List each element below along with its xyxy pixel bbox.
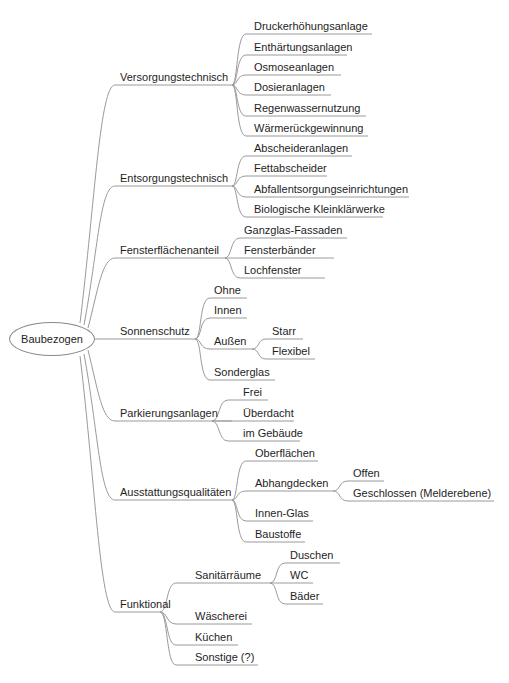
node-funktional[interactable]: Funktional <box>120 598 171 611</box>
node-regenwassernutzung[interactable]: Regenwassernutzung <box>254 102 360 115</box>
node-kuechen[interactable]: Küchen <box>195 631 232 644</box>
node-ganzglas-fassaden[interactable]: Ganzglas-Fassaden <box>244 224 342 237</box>
node-sanitaerraeume[interactable]: Sanitärräume <box>195 569 261 582</box>
node-flexibel[interactable]: Flexibel <box>272 345 310 358</box>
node-fensterflaechenanteil[interactable]: Fensterflächenanteil <box>120 244 219 257</box>
node-abhangdecken[interactable]: Abhangdecken <box>255 477 328 490</box>
node-wc[interactable]: WC <box>290 569 308 582</box>
node-baustoffe[interactable]: Baustoffe <box>255 528 301 541</box>
node-lochfenster[interactable]: Lochfenster <box>244 264 301 277</box>
node-waermerueckgewinnung[interactable]: Wärmerückgewinnung <box>254 122 363 135</box>
node-waescherei[interactable]: Wäscherei <box>195 610 247 623</box>
node-innen-glas[interactable]: Innen-Glas <box>255 507 309 520</box>
node-osmoseanlagen[interactable]: Osmoseanlagen <box>254 61 334 74</box>
node-fettabscheider[interactable]: Fettabscheider <box>254 162 327 175</box>
node-ueberdacht[interactable]: Überdacht <box>243 407 294 420</box>
node-dosieranlagen[interactable]: Dosieranlagen <box>254 81 325 94</box>
node-enthaertungsanlagen[interactable]: Enthärtungsanlagen <box>254 41 352 54</box>
node-sonnenschutz[interactable]: Sonnenschutz <box>120 325 190 338</box>
node-innen[interactable]: Innen <box>214 304 242 317</box>
node-biologische-kleinklaerwerke[interactable]: Biologische Kleinklärwerke <box>254 203 385 216</box>
node-fensterbaender[interactable]: Fensterbänder <box>244 244 316 257</box>
root-node[interactable]: Baubezogen <box>9 322 95 356</box>
node-versorgungstechnisch[interactable]: Versorgungstechnisch <box>120 71 228 84</box>
node-sonstige[interactable]: Sonstige (?) <box>195 651 254 664</box>
node-entsorgungstechnisch[interactable]: Entsorgungstechnisch <box>120 172 228 185</box>
node-oberflaechen[interactable]: Oberflächen <box>255 447 315 460</box>
node-parkierungsanlagen[interactable]: Parkierungsanlagen <box>120 407 218 420</box>
node-ausstattungsqualitaeten[interactable]: Ausstattungsqualitäten <box>120 486 231 499</box>
node-abscheideranlagen[interactable]: Abscheideranlagen <box>254 142 348 155</box>
node-baeder[interactable]: Bäder <box>290 590 319 603</box>
node-im-gebaeude[interactable]: im Gebäude <box>243 427 303 440</box>
node-ohne[interactable]: Ohne <box>214 284 241 297</box>
node-druckerhoehungsanlage[interactable]: Druckerhöhungsanlage <box>254 20 368 33</box>
node-geschlossen-melderebene[interactable]: Geschlossen (Melderebene) <box>353 487 491 500</box>
node-frei[interactable]: Frei <box>243 386 262 399</box>
root-label: Baubezogen <box>21 333 83 345</box>
node-aussen[interactable]: Außen <box>214 335 246 348</box>
node-offen[interactable]: Offen <box>353 467 380 480</box>
node-sonderglas[interactable]: Sonderglas <box>214 366 270 379</box>
node-starr[interactable]: Starr <box>272 325 296 338</box>
node-abfallentsorgungseinrichtungen[interactable]: Abfallentsorgungseinrichtungen <box>254 183 408 196</box>
node-duschen[interactable]: Duschen <box>290 549 333 562</box>
